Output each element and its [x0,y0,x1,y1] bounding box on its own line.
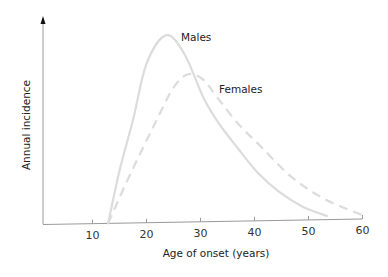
males-label: Males [181,31,211,43]
incidence-chart: 102030405060 Males Females Age of onset … [0,0,388,277]
x-tick-label: 30 [194,227,208,240]
x-tick-label: 10 [86,229,100,242]
x-axis-title: Age of onset (years) [163,247,270,259]
x-tick-label: 20 [140,228,154,241]
x-tick-label: 50 [302,225,316,238]
x-tick-label: 40 [248,226,262,239]
x-axis [43,219,362,225]
y-axis-title: Annual incidence [20,80,32,170]
x-tick-labels: 102030405060 [86,224,370,242]
females-curve [108,74,362,223]
females-label: Females [219,83,262,95]
y-axis-arrow-icon [41,16,46,24]
males-curve [108,35,327,223]
x-tick-label: 60 [356,224,370,237]
